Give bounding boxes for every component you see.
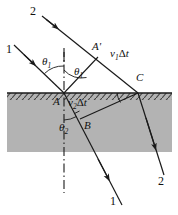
distance-label-v1-delta-t: v1Δt [110, 48, 129, 62]
incident-ray-2-arrow [46, 19, 56, 27]
point-label-B: B [84, 120, 91, 131]
ray-label-incident-1: 1 [6, 43, 12, 55]
ray-label-incident-2: 2 [30, 5, 36, 17]
theta1-left-subscript: 1 [47, 61, 51, 70]
angle-label-theta2: θ2 [59, 122, 68, 136]
point-label-A: A [53, 96, 60, 107]
diagram-canvas [0, 0, 178, 215]
incident-ray-1-arrow [24, 55, 34, 64]
v1-delta-symbol: Δ [119, 47, 126, 59]
angle-label-theta1-left: θ1 [42, 56, 51, 70]
ray-label-refracted-1: 1 [110, 195, 116, 207]
point-label-C: C [136, 72, 143, 83]
theta2-subscript: 2 [64, 127, 68, 136]
v2-delta-symbol: Δ [77, 96, 84, 108]
v1-t-symbol: t [126, 47, 129, 59]
point-label-A-prime: A' [92, 41, 101, 52]
refraction-diagram: 2 1 1 2 A A' B C θ1 θ1 θ2 v1Δt v2Δt [0, 0, 178, 215]
angle-label-theta1-right: θ1 [74, 66, 83, 80]
ray-label-refracted-2: 2 [158, 175, 164, 187]
v2-t-symbol: t [84, 96, 87, 108]
incident-ray-1 [14, 45, 64, 93]
theta1-right-subscript: 1 [79, 71, 83, 80]
distance-label-v2-delta-t: v2Δt [68, 97, 87, 111]
refracted-ray-1-arrow [98, 159, 108, 178]
interface-hatching [7, 93, 172, 100]
